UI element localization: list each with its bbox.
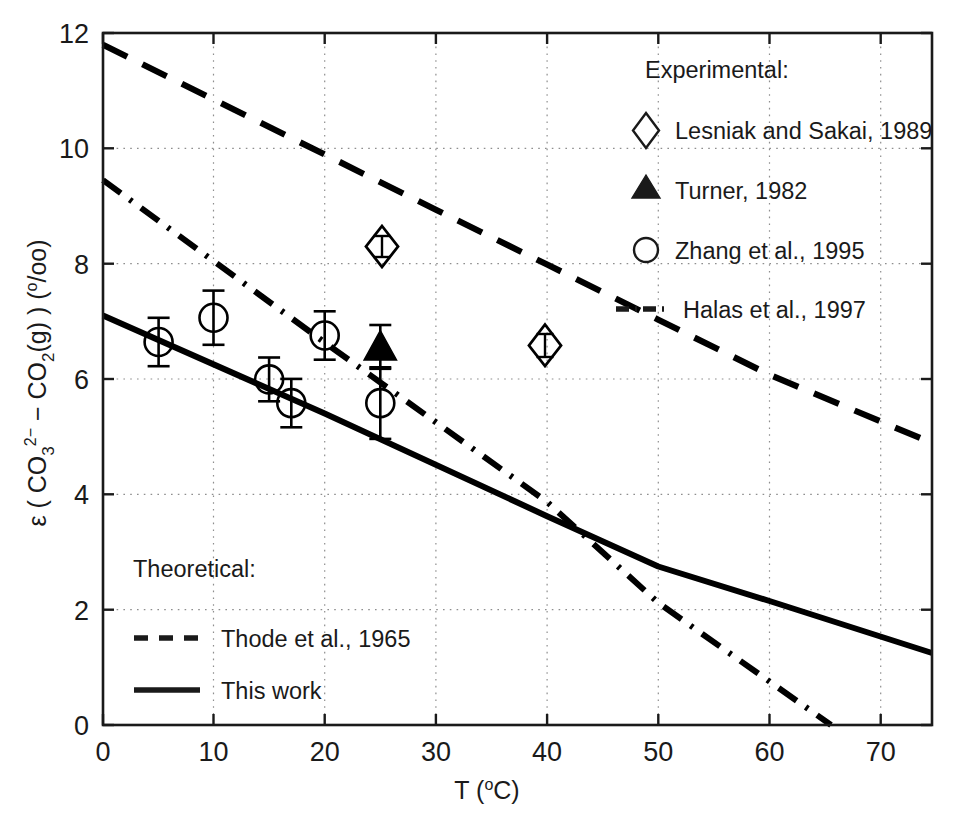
legend-item-label: Turner, 1982 [675,178,807,204]
x-axis-title-degree: o [484,776,493,793]
chart-figure: 0 10 20 30 40 50 60 70 0 2 4 6 8 10 12 T… [0,0,964,827]
legend-experimental-heading: Experimental: [645,57,789,83]
svg-text:T (oC): T (oC) [454,776,519,804]
x-tick-label: 20 [310,737,340,767]
svg-text:ε ( CO32− − CO2(g) ) (o/oo): ε ( CO32− − CO2(g) ) (o/oo) [22,239,58,526]
y-axis-title-permil: /oo) [23,239,51,282]
chart-svg: 0 10 20 30 40 50 60 70 0 2 4 6 8 10 12 T… [0,0,964,827]
y-axis-title-sub3: 3 [39,446,58,455]
y-axis-title-permil-sup: o [23,282,40,291]
y-axis-title-gas: (g) ) ( [23,291,51,353]
y-tick-label: 12 [59,19,89,49]
x-tick-label: 70 [866,737,896,767]
x-tick-label: 30 [421,737,451,767]
y-tick-label: 6 [74,365,89,395]
legend-item-label: Thode et al., 1965 [221,626,410,652]
legend-item-label: Lesniak and Sakai, 1989 [675,118,932,144]
x-axis-title: T (oC) [454,776,519,804]
y-tick-label: 2 [74,596,89,626]
x-tick-label: 60 [754,737,784,767]
legend-item-label: This work [221,678,322,704]
y-axis-title: ε ( CO32− − CO2(g) ) (o/oo) [22,239,58,526]
y-tick-label: 10 [59,134,89,164]
x-tick-label: 50 [643,737,673,767]
y-tick-label: 0 [74,711,89,741]
y-tick-labels: 0 2 4 6 8 10 12 [59,19,89,741]
x-axis-title-main: T ( [454,776,485,804]
y-axis-title-minus: − CO [23,362,51,428]
y-tick-label: 4 [74,480,89,510]
y-axis-title-sub2: 2 [39,353,58,362]
y-tick-label: 8 [74,250,89,280]
legend-item-label: Zhang et al., 1995 [675,238,864,264]
legend-item-lesniak[interactable]: Lesniak and Sakai, 1989 [633,113,932,148]
x-tick-label: 10 [198,737,228,767]
x-tick-label: 0 [95,737,110,767]
legend-theoretical-heading: Theoretical: [133,556,256,582]
x-tick-labels: 0 10 20 30 40 50 60 70 [95,737,895,767]
x-tick-label: 40 [532,737,562,767]
y-axis-title-charge: 2− [22,428,39,446]
x-axis-title-tail: C) [493,776,519,804]
y-axis-title-epsilon: ε ( CO [23,456,51,527]
legend-item-label: Halas et al., 1997 [683,297,866,323]
